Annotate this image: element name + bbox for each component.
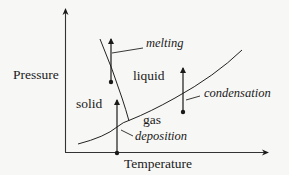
condensation-label: condensation	[204, 86, 271, 100]
deposition-leader-line	[121, 130, 133, 136]
solid-region-label: solid	[76, 96, 103, 111]
condensation-start-dot	[181, 110, 185, 114]
deposition-start-dot	[115, 151, 119, 155]
y-axis-label: Pressure	[13, 67, 59, 82]
phase-diagram: melting condensation deposition liquid s…	[0, 0, 289, 175]
gas-region-label: gas	[143, 112, 161, 127]
melting-label: melting	[146, 36, 184, 50]
sublimation-curve	[78, 120, 130, 144]
condensation-leader-line	[186, 96, 200, 100]
melting-start-dot	[109, 80, 113, 84]
vaporization-curve	[130, 50, 242, 120]
x-axis-label: Temperature	[124, 156, 192, 171]
deposition-label: deposition	[135, 129, 187, 143]
liquid-region-label: liquid	[133, 68, 165, 83]
melting-leader-line	[112, 48, 143, 53]
